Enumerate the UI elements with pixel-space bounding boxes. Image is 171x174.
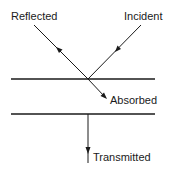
incident-label: Incident	[124, 10, 163, 22]
transmitted-label: Transmitted	[93, 151, 151, 163]
absorbed-label: Absorbed	[110, 94, 157, 106]
light-interaction-diagram: Reflected Incident Absorbed Transmitted	[0, 0, 171, 174]
incident-ray	[88, 25, 141, 79]
reflected-label: Reflected	[11, 10, 57, 22]
reflected-ray	[34, 25, 88, 79]
transmitted-arrowhead-icon	[86, 147, 91, 154]
